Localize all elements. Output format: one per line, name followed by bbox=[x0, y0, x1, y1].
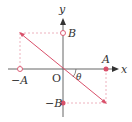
y-axis-arrow-icon bbox=[60, 18, 66, 25]
label-neg-A: −A bbox=[11, 74, 28, 87]
point-A-filled bbox=[104, 67, 109, 72]
origin-label: O bbox=[52, 72, 61, 85]
angle-label: θ bbox=[76, 72, 82, 82]
x-axis-label: x bbox=[121, 63, 128, 76]
label-A: A bbox=[101, 53, 110, 66]
diagram-canvas: y x B A −A −B O θ bbox=[0, 0, 132, 122]
y-axis-label: y bbox=[58, 3, 66, 16]
point-neg-A-open bbox=[18, 67, 23, 72]
label-B: B bbox=[67, 27, 76, 40]
label-neg-B: −B bbox=[45, 97, 62, 110]
coordinate-diagram: y x B A −A −B O θ bbox=[0, 0, 132, 122]
point-B-open bbox=[61, 31, 66, 36]
x-axis-arrow-icon bbox=[112, 66, 119, 72]
